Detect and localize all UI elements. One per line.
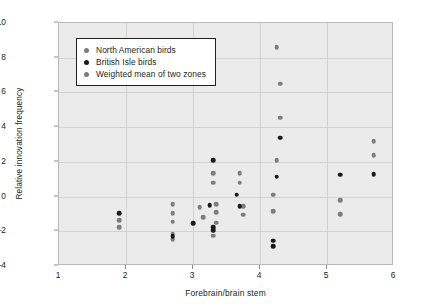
data-point [338,198,343,203]
data-point [117,225,122,230]
x-tick-label: 1 [46,270,70,280]
data-point [372,153,377,158]
gridline-horizontal [59,127,392,128]
y-tick-label: 0 [0,191,6,201]
y-tick-label: 6 [0,86,6,96]
data-point [201,215,206,220]
gridline-vertical [327,23,328,264]
data-point [278,135,283,140]
x-tickmark [259,265,260,269]
data-point [271,244,276,249]
data-point [372,139,377,144]
gridline-vertical [260,23,261,264]
legend-entry: Weighted mean of two zones [84,68,206,80]
data-point [238,180,243,185]
data-point [234,193,239,198]
data-point [338,173,343,178]
scatter-chart-figure: Relative innovation frequency Forebrain/… [0,0,428,308]
data-point [191,221,196,226]
gridline-horizontal [59,162,392,163]
legend-entry: British Isle birds [84,56,206,68]
y-tick-label: –4 [0,260,6,270]
legend-marker-icon [84,72,89,77]
x-tick-label: 3 [180,270,204,280]
data-point [214,202,219,207]
y-tick-label: 2 [0,156,6,166]
legend-label: Weighted mean of two zones [96,69,206,79]
data-point [211,180,216,185]
data-point [211,158,216,163]
x-axis-title: Forebrain/brain stem [58,288,393,298]
legend-label: British Isle birds [96,57,157,67]
data-point [372,172,377,177]
data-point [278,81,283,86]
data-point [211,233,216,238]
y-tick-label: 4 [0,121,6,131]
data-point [338,212,343,217]
data-point [211,171,216,176]
data-point [271,193,276,198]
y-tick-label: 8 [0,52,6,62]
x-tickmark [192,265,193,269]
gridline-horizontal [59,92,392,93]
data-point [171,211,176,216]
y-tick-label: 10 [0,17,6,27]
x-tickmark [125,265,126,269]
y-tick-label: –2 [0,225,6,235]
x-tick-label: 2 [113,270,137,280]
x-tick-label: 6 [381,270,405,280]
data-point [207,203,212,208]
data-point [274,45,279,50]
legend-entry: North American birds [84,44,206,56]
data-point [171,234,176,239]
data-point [274,174,279,179]
data-point [117,211,122,216]
legend-marker-icon [84,60,89,65]
y-axis-title: Relative innovation frequency [10,22,28,265]
x-tickmark [326,265,327,269]
data-point [171,202,176,207]
legend-label: North American birds [96,45,176,55]
chart-legend: North American birdsBritish Isle birdsWe… [76,38,216,86]
data-point [211,228,216,233]
data-point [214,210,219,215]
data-point [271,209,276,214]
data-point [197,205,202,210]
data-point [278,115,283,120]
data-point [171,219,176,224]
gridline-horizontal [59,231,392,232]
x-tick-label: 4 [247,270,271,280]
data-point [241,212,246,217]
data-point [238,204,243,209]
data-point [117,218,122,223]
data-point [274,158,279,163]
data-point [238,171,243,176]
data-point [271,239,276,244]
legend-marker-icon [84,48,89,53]
x-tick-label: 5 [314,270,338,280]
